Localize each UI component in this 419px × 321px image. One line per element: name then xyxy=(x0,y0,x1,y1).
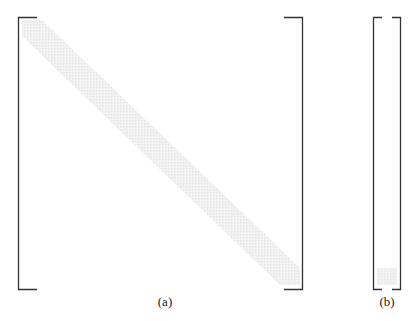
panel-b-label: (b) xyxy=(367,294,407,310)
vector-band xyxy=(377,268,397,285)
right-bracket-a xyxy=(284,18,303,290)
left-bracket-a xyxy=(19,18,38,290)
right-bracket-b xyxy=(392,18,401,290)
panel-a-matrix xyxy=(19,18,303,290)
panel-a-label: (a) xyxy=(145,294,185,310)
matrix-figure xyxy=(0,0,419,321)
panel-b-vector xyxy=(374,18,401,290)
diagonal-band xyxy=(22,20,300,285)
left-bracket-b xyxy=(374,18,383,290)
